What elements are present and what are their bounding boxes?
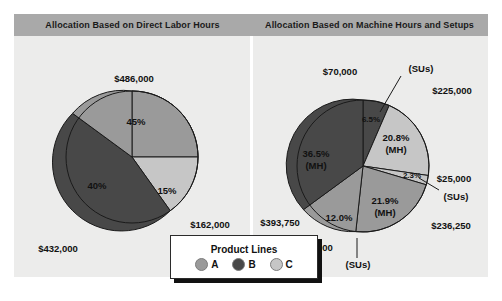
right-label-pct-c-machine: 20.8% [383,132,410,143]
legend-swatch-b-icon [232,258,245,271]
panel-title-right: Allocation Based on Machine Hours and Se… [251,14,488,36]
right-label-pct-b-setups: 6.5% [362,115,380,124]
left-label-pct-a: 45% [126,116,146,127]
left-label-amount-c: $162,000 [190,219,230,230]
legend-label-c: C [286,259,293,270]
legend-item-b[interactable]: B [232,258,255,271]
legend-title: Product Lines [211,244,278,255]
right-label-pct-a-machine: 21.9% [372,195,399,206]
clipped-text-fragment [100,0,400,6]
legend-swatch-a-icon [195,258,208,271]
legend-swatch-c-icon [270,258,283,271]
right-label-driver-c-setups: (SUs) [444,191,469,202]
legend-box: Product Lines A B C [170,235,318,279]
left-label-pct-c: 15% [157,185,177,196]
right-label-driver-c-machine: (MH) [385,144,406,155]
legend-item-a[interactable]: A [195,258,218,271]
right-label-pct-a-setups: 12.0% [326,212,353,223]
legend-item-c[interactable]: C [270,258,293,271]
right-label-driver-b-machine: (MH) [305,160,326,171]
right-label-amount-b-setups: $70,000 [323,66,357,77]
right-label-driver-a-machine: (MH) [374,207,395,218]
right-label-amount-b-machine: $393,750 [260,217,300,228]
legend-items: A B C [195,258,293,271]
panel-header-band: Allocation Based on Direct Labor Hours A… [14,14,488,36]
left-label-amount-a: $486,000 [114,73,154,84]
right-label-pct-b-machine: 36.5% [303,148,330,159]
legend-label-b: B [248,259,255,270]
right-label-driver-b-setups: (SUs) [409,63,434,74]
panel-title-left: Allocation Based on Direct Labor Hours [14,14,251,36]
right-label-driver-a-setups: (SUs) [346,259,371,270]
legend-label-a: A [211,259,218,270]
left-label-amount-b: $432,000 [38,243,78,254]
right-label-amount-c-machine: $225,000 [432,85,472,96]
right-label-amount-c-setups: $25,000 [437,173,471,184]
left-label-pct-b: 40% [87,180,107,191]
left-pie [52,90,198,231]
right-label-amount-a-machine: $236,250 [431,220,471,231]
right-label-pct-c-setups: 2.3% [403,171,421,180]
